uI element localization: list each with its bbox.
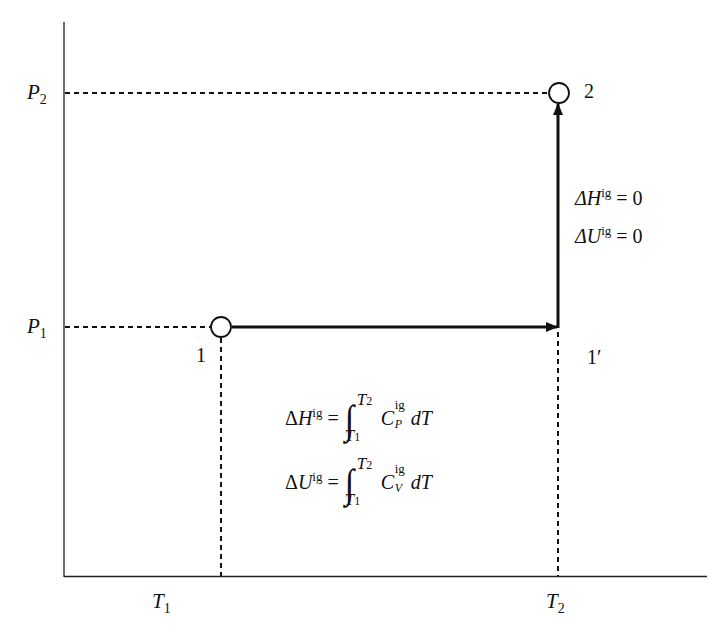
diagram-canvas [0,0,717,643]
isobaric-enthalpy-equation: ΔHig = ∫T2T1CigPdT [285,400,432,440]
state-point-2 [549,83,569,103]
state-point-1 [211,317,231,337]
t1-label: T1 [152,591,171,616]
point-1prime-label: 1′ [587,347,601,367]
p2-label: P2 [27,82,47,107]
isobaric-internal-energy-equation: ΔUig = ∫T2T1CigVdT [285,464,432,504]
point-1-label: 1 [196,345,206,365]
isothermal-internal-energy-equation: ΔUig = 0 [575,224,643,246]
isothermal-enthalpy-equation: ΔHig = 0 [575,186,643,208]
t2-label: T2 [546,591,565,616]
point-2-label: 2 [584,81,594,101]
p1-label: P1 [27,316,47,341]
